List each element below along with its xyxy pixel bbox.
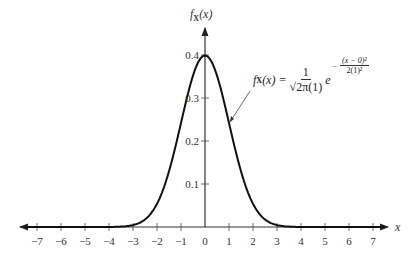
pdf-formula-annotation: fX(x) = 1 √2π(1) e − (x − 0)² 2(1)² [253,66,372,95]
x-tick-label: −7 [31,236,43,247]
formula-den: √2π(1) [290,80,323,94]
y-tick-label: 0.2 [185,136,199,147]
x-tick-label: −3 [127,236,139,247]
formula-arg: (x) = [262,73,286,88]
x-tick-label: 5 [322,236,328,247]
formula-exponent: − (x − 0)² 2(1)² [333,57,372,76]
formula-exp-num: (x − 0)² [340,57,369,67]
x-tick-label: −1 [175,236,187,247]
x-tick-label: −4 [103,236,115,247]
x-tick-label: 6 [346,236,352,247]
x-tick-label: 4 [298,236,304,247]
y-tick-label: 0.3 [185,93,199,104]
y-axis-label: fX(x) [190,8,212,23]
formula-exp-sign: − [333,62,338,71]
x-tick-label: 3 [274,236,280,247]
y-axis-label-arg: (x) [199,7,212,21]
x-tick-label: 0 [202,236,208,247]
formula-exp-den: 2(1)² [347,66,363,76]
x-tick-label: −5 [79,236,91,247]
formula-coefficient: 1 √2π(1) [290,66,323,95]
x-axis-label: x [395,221,400,233]
x-tick-label: 1 [226,236,232,247]
x-tick-label: −2 [151,236,163,247]
x-tick-label: 7 [370,236,376,247]
y-tick-label: 0.4 [185,50,199,61]
chart-canvas [0,0,410,260]
x-tick-label: 2 [250,236,256,247]
x-tick-label: −6 [55,236,67,247]
formula-num: 1 [301,66,311,80]
y-tick-label: 0.1 [185,179,199,190]
formula-e: e [325,73,330,88]
annotation-arrow [230,91,250,122]
